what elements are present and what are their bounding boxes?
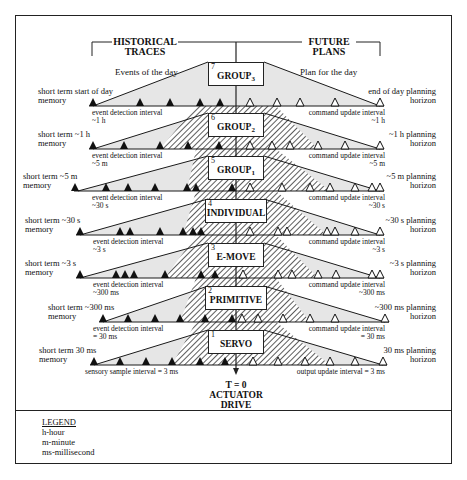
planned-command-triangle-icon [381, 314, 389, 322]
level-name-text: GROUP [217, 165, 251, 175]
level-name-text: INDIVIDUAL [207, 208, 266, 218]
header-line-2: TRACES [112, 47, 178, 57]
actuator-drive-label: T = 0 ACTUATOR DRIVE [200, 380, 272, 410]
command-update-interval-value: ~5 m [369, 160, 385, 168]
short-term-memory-label-line2: memory [38, 96, 66, 105]
level-number: 2 [208, 287, 212, 295]
event-detection-interval-label: sensory sample interval = 3 ms [85, 368, 178, 376]
header-line-2: PLANS [302, 47, 356, 57]
level-name: PRIMITIVE [206, 295, 266, 306]
level-number: 7 [211, 63, 215, 71]
level-box-group1: 5GROUP1 [208, 156, 264, 180]
command-update-interval-label: output update interval = 3 ms [297, 368, 385, 376]
level-subscript: 2 [251, 126, 255, 134]
short-term-memory-label-line2: memory [23, 181, 51, 190]
event-detected-triangle-icon [89, 98, 97, 106]
event-detected-triangle-icon [89, 141, 97, 149]
time-zero-label: T = 0 [200, 380, 272, 390]
level-box-servo: 1SERVO [208, 330, 264, 354]
level-box-primitive: 2PRIMITIVE [205, 286, 267, 310]
legend: LEGEND h-hour m-minute ms-millisecond [42, 417, 94, 457]
command-update-interval-value: ~3 s [372, 246, 385, 254]
planned-command-triangle-icon [368, 183, 376, 191]
command-update-interval-value: ~300 ms [359, 289, 385, 297]
event-detection-interval-value: = 30 ms [93, 333, 117, 341]
planning-horizon-label-line2: horizon [410, 181, 436, 190]
level-number: 4 [208, 200, 212, 208]
short-term-memory-label-line2: memory [39, 355, 67, 364]
actuator-drive-text: ACTUATOR DRIVE [200, 390, 272, 410]
short-term-memory-label-line2: memory [38, 139, 66, 148]
planning-horizon-label-line2: horizon [410, 268, 436, 277]
command-update-interval-value: ~30 s [369, 202, 385, 210]
level-number: 3 [211, 244, 215, 252]
level-box-e-move: 3E-MOVE [208, 243, 264, 267]
planned-command-triangle-icon [376, 141, 384, 149]
event-detected-triangle-icon [99, 314, 107, 322]
legend-item: h-hour [42, 427, 94, 437]
level-name: E-MOVE [209, 252, 263, 263]
plan-for-the-day-caption: Plan for the day [300, 68, 357, 77]
command-update-interval-value: = 30 ms [361, 333, 385, 341]
level-number: 6 [211, 114, 215, 122]
planned-command-triangle-icon [368, 270, 376, 278]
level-name: GROUP3 [209, 71, 263, 82]
level-name-text: SERVO [220, 339, 252, 349]
level-number: 5 [211, 157, 215, 165]
short-term-memory-label-line2: memory [25, 225, 53, 234]
planned-command-triangle-icon [376, 270, 384, 278]
legend-item: ms-millisecond [42, 447, 94, 457]
planning-horizon-label-line2: horizon [410, 355, 436, 364]
event-detected-triangle-icon [90, 357, 98, 365]
level-box-individual: 4INDIVIDUAL [205, 199, 267, 223]
level-name: GROUP2 [209, 122, 263, 133]
legend-title: LEGEND [42, 417, 94, 427]
event-detected-triangle-icon [76, 227, 84, 235]
event-detected-triangle-icon [76, 270, 84, 278]
event-detection-interval-value: ~30 s [92, 202, 108, 210]
short-term-memory-label-line2: memory [25, 268, 53, 277]
level-name-text: PRIMITIVE [210, 295, 262, 305]
event-detection-interval-value: ~5 m [92, 160, 108, 168]
level-name-text: E-MOVE [216, 252, 255, 262]
actuator-arrow-icon [233, 368, 239, 375]
level-name: SERVO [209, 339, 263, 350]
level-name: GROUP1 [209, 165, 263, 176]
level-name-text: GROUP [217, 122, 251, 132]
planned-command-triangle-icon [379, 357, 387, 365]
level-number: 1 [211, 331, 215, 339]
planned-command-triangle-icon [376, 227, 384, 235]
level-box-group3: 7GROUP3 [208, 62, 264, 86]
event-detection-interval-value: ~300 ms [93, 289, 119, 297]
event-detection-interval-value: ~1 h [92, 117, 105, 125]
event-detected-triangle-icon [71, 183, 79, 191]
planned-command-triangle-icon [376, 183, 384, 191]
legend-item: m-minute [42, 437, 94, 447]
event-detection-interval-value: ~3 s [93, 246, 106, 254]
command-update-interval-value: ~1 h [372, 117, 385, 125]
planning-horizon-label-line2: horizon [410, 139, 436, 148]
level-subscript: 3 [251, 75, 255, 83]
level-subscript: 1 [251, 169, 255, 177]
planned-command-triangle-icon [376, 98, 384, 106]
future-plans-header: FUTURE PLANS [302, 37, 356, 57]
level-name-text: GROUP [217, 71, 251, 81]
planning-horizon-label-line2: horizon [410, 96, 436, 105]
historical-traces-header: HISTORICAL TRACES [112, 37, 178, 57]
short-term-memory-label-line2: memory [48, 312, 76, 321]
events-of-the-day-caption: Events of the day [115, 68, 178, 77]
planning-horizon-label-line2: horizon [410, 312, 436, 321]
level-box-group2: 6GROUP2 [208, 113, 264, 137]
planning-horizon-label-line2: horizon [410, 225, 436, 234]
level-name: INDIVIDUAL [206, 208, 266, 219]
